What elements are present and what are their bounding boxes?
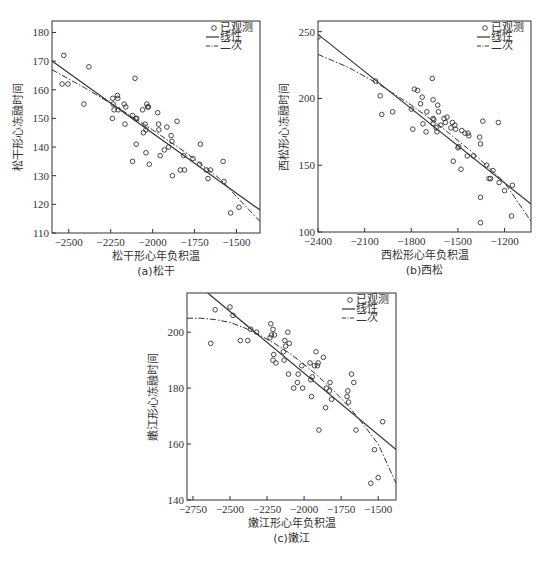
observed-point — [481, 119, 486, 124]
observed-point — [300, 386, 305, 391]
legend: 已观测线性二次 — [206, 21, 253, 52]
observed-point — [123, 122, 128, 127]
y-axis-label: 西松形心冻融时间 — [277, 83, 291, 171]
y-tick-label: 120 — [33, 198, 50, 210]
observed-point — [477, 135, 482, 140]
x-tick-label: −1500 — [364, 503, 393, 515]
observed-point — [206, 176, 211, 181]
observed-point — [283, 338, 288, 343]
observed-point — [509, 214, 514, 219]
observed-point — [147, 162, 152, 167]
plot-frame — [318, 21, 531, 232]
y-tick-label: 250 — [299, 26, 316, 38]
observed-point — [165, 125, 170, 130]
observed-point — [140, 108, 145, 113]
legend-label: 二次 — [491, 38, 513, 52]
plot-frame — [187, 293, 396, 500]
y-tick-label: 160 — [168, 438, 185, 450]
observed-point — [295, 380, 300, 385]
observed-point — [287, 341, 292, 346]
subplot-caption: (c)嫩江 — [273, 531, 310, 545]
observed-point — [296, 372, 301, 377]
quadratic-fit-curve — [318, 54, 531, 221]
observed-point — [228, 305, 233, 310]
quadratic-fit-curve — [52, 70, 260, 222]
observed-point — [115, 96, 120, 101]
x-axis-label: 松干形心年负积温 — [112, 249, 200, 263]
observed-point — [291, 386, 296, 391]
observed-point — [460, 128, 465, 133]
observed-point — [308, 361, 313, 366]
observed-point — [285, 330, 290, 335]
observed-point — [144, 150, 149, 155]
observed-point — [238, 338, 243, 343]
observed-point — [349, 372, 354, 377]
observed-point — [286, 372, 291, 377]
observed-point — [198, 142, 203, 147]
figure-canvas: −2500−2250−2000−1750−1500110120130140150… — [0, 0, 552, 561]
observed-point — [158, 153, 163, 158]
observed-point — [459, 167, 464, 172]
observed-point — [110, 116, 115, 121]
observed-point — [272, 333, 277, 338]
chart-c: −2750−2500−2250−2000−1750−15001401601802… — [146, 293, 396, 545]
observed-point — [162, 148, 167, 153]
observed-point — [134, 142, 139, 147]
observed-point — [141, 130, 146, 135]
observed-point — [316, 361, 321, 366]
plot-frame — [52, 21, 260, 233]
y-tick-label: 170 — [33, 55, 50, 67]
observed-point — [380, 419, 385, 424]
y-tick-label: 140 — [168, 494, 185, 506]
chart-b: −2400−2100−1800−1500−1200100150200250西松形… — [277, 21, 531, 277]
observed-point — [430, 76, 435, 81]
y-axis-label: 嫩江形心冻融时间 — [146, 353, 160, 441]
observed-point — [372, 447, 377, 452]
observed-point — [420, 95, 425, 100]
observed-point — [346, 400, 351, 405]
observed-point — [510, 183, 515, 188]
legend-label: 二次 — [356, 310, 378, 324]
legend: 已观测线性二次 — [477, 21, 524, 52]
observed-point — [351, 380, 356, 385]
y-tick-label: 130 — [33, 170, 50, 182]
plot-area — [52, 53, 260, 221]
observed-point — [66, 82, 71, 87]
observed-point — [110, 96, 115, 101]
observed-point — [271, 358, 276, 363]
observed-point — [155, 110, 160, 115]
observed-point — [130, 159, 135, 164]
x-tick-label: −1800 — [397, 235, 426, 247]
y-tick-label: 200 — [168, 326, 185, 338]
observed-point — [274, 361, 279, 366]
observed-point — [208, 341, 213, 346]
observed-point — [309, 394, 314, 399]
x-tick-label: −2500 — [55, 236, 84, 248]
observed-point — [60, 82, 65, 87]
x-tick-label: −2250 — [253, 503, 282, 515]
x-axis-label: 嫩江形心年负积温 — [248, 516, 336, 530]
observed-point — [436, 110, 441, 115]
observed-point — [390, 110, 395, 115]
observed-point — [245, 338, 250, 343]
observed-point — [346, 389, 351, 394]
observed-point — [157, 128, 162, 133]
x-tick-label: −1750 — [180, 236, 209, 248]
y-axis-label: 松干形心冻融时间 — [11, 83, 25, 171]
observed-point — [411, 127, 416, 132]
y-tick-label: 140 — [33, 141, 50, 153]
observed-point — [61, 53, 66, 58]
observed-point — [378, 93, 383, 98]
observed-point — [87, 65, 92, 70]
observed-point — [271, 327, 276, 332]
x-tick-label: −2000 — [139, 236, 168, 248]
plot-area — [316, 34, 531, 225]
observed-point — [317, 428, 322, 433]
chart-a: −2500−2250−2000−1750−1500110120130140150… — [11, 21, 260, 278]
observed-point — [431, 97, 436, 102]
x-tick-label: −2500 — [216, 503, 245, 515]
observed-point — [379, 112, 384, 117]
linear-fit-line — [318, 34, 531, 204]
observed-point — [321, 355, 326, 360]
x-tick-label: −1750 — [327, 503, 356, 515]
